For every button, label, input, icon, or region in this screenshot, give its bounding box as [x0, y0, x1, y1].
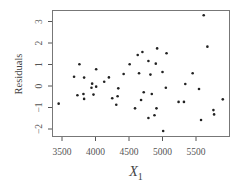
x-tick-label: 4500: [120, 147, 139, 157]
data-point: [91, 82, 94, 85]
data-point: [76, 94, 79, 97]
data-point: [149, 73, 152, 76]
data-point: [161, 71, 164, 74]
data-point: [165, 86, 168, 89]
data-point: [165, 52, 168, 55]
residual-scatter-plot: 35004000450050005500 −2−10123 X1 Residua…: [0, 0, 241, 186]
data-point: [155, 107, 158, 110]
data-point: [95, 68, 98, 71]
data-point: [212, 109, 215, 112]
data-point: [95, 85, 98, 88]
data-point: [198, 88, 201, 91]
data-point: [103, 80, 106, 83]
data-point: [213, 113, 216, 116]
x-tick-label: 4000: [86, 147, 105, 157]
data-point: [141, 51, 144, 54]
data-point: [184, 83, 187, 86]
x-tick-label: 3500: [53, 147, 72, 157]
data-point: [136, 54, 139, 57]
data-point: [83, 76, 86, 79]
data-point: [128, 63, 131, 66]
data-point: [115, 103, 118, 106]
data-point: [155, 62, 158, 65]
data-point: [122, 73, 125, 76]
data-point: [78, 63, 81, 66]
plot-frame: [53, 11, 230, 137]
data-point: [140, 99, 143, 102]
data-point: [200, 119, 203, 122]
y-tick-label: 2: [34, 40, 44, 45]
x-tick-label: 5000: [153, 147, 172, 157]
x-axis-title-subscript: 1: [138, 171, 143, 182]
data-point: [222, 98, 225, 101]
data-point: [108, 76, 111, 79]
data-points: [57, 14, 224, 132]
x-axis-title: X1: [128, 164, 143, 182]
y-tick-label: −2: [34, 124, 44, 134]
x-axis: 35004000450050005500: [53, 137, 206, 157]
data-point: [156, 47, 159, 50]
data-point: [73, 75, 76, 78]
data-point: [117, 87, 120, 90]
data-point: [202, 14, 205, 17]
data-point: [191, 72, 194, 75]
x-tick-label: 5500: [187, 147, 206, 157]
data-point: [147, 117, 150, 120]
data-point: [142, 91, 145, 94]
y-tick-label: 3: [34, 19, 44, 24]
data-point: [183, 101, 186, 104]
y-axis: −2−10123: [34, 19, 52, 134]
data-point: [82, 93, 85, 96]
data-point: [150, 93, 153, 96]
y-tick-label: 1: [34, 62, 44, 67]
data-point: [162, 130, 165, 133]
data-point: [111, 97, 114, 100]
data-point: [153, 114, 156, 117]
data-point: [134, 107, 137, 110]
data-point: [90, 86, 93, 89]
data-point: [83, 98, 86, 101]
data-point: [147, 60, 150, 63]
data-point: [57, 102, 60, 105]
data-point: [177, 101, 180, 104]
data-point: [92, 93, 95, 96]
data-point: [206, 45, 209, 48]
y-tick-label: −1: [34, 102, 44, 112]
y-axis-title: Residuals: [13, 54, 24, 95]
data-point: [138, 72, 141, 75]
data-point: [116, 95, 119, 98]
y-tick-label: 0: [34, 83, 44, 88]
